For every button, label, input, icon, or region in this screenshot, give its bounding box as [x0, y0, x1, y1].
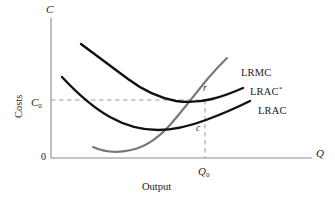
- cost-curves-figure: C Q Costs Output 0 C0 Q0 LRMC LRAC* LRAC…: [0, 0, 335, 203]
- q0-symbol: Q: [198, 165, 206, 177]
- c0-subscript: 0: [38, 102, 42, 110]
- y-axis-symbol: C: [46, 4, 53, 15]
- point-label-r: r: [203, 84, 207, 94]
- lrac-star-curve: [81, 44, 243, 102]
- lrac-curve-label: LRAC: [258, 106, 287, 117]
- point-label-c: c: [196, 124, 200, 134]
- c0-tick-label: C0: [31, 93, 42, 110]
- lrmc-curve: [93, 58, 227, 152]
- lrmc-curve-label: LRMC: [241, 68, 272, 79]
- origin-label: 0: [41, 152, 46, 162]
- lrac-star-curve-label: LRAC*: [250, 86, 283, 98]
- lrac-star-superscript: *: [279, 85, 283, 93]
- x-axis-symbol: Q: [316, 148, 324, 159]
- q0-tick-label: Q0: [198, 162, 209, 179]
- x-axis-title: Output: [142, 182, 171, 193]
- q0-subscript: 0: [206, 171, 210, 179]
- chart-canvas: [0, 0, 335, 203]
- y-axis-title: Costs: [14, 95, 25, 118]
- lrac-curve: [62, 77, 250, 130]
- lrac-star-base: LRAC: [250, 86, 279, 97]
